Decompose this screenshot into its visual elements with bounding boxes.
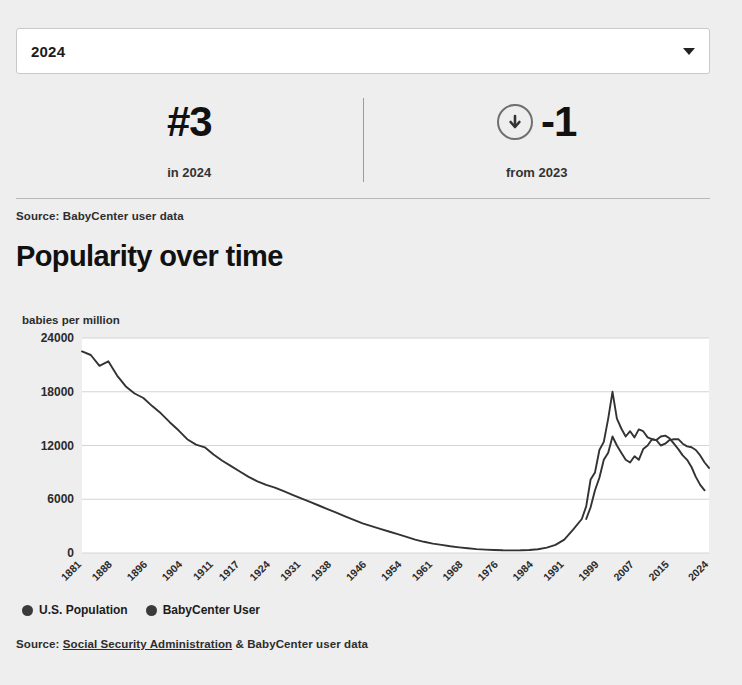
stat-rank-value: #3 <box>167 101 212 143</box>
x-tick-label: 1888 <box>89 558 114 583</box>
divider-top <box>16 198 710 199</box>
x-tick-label: 1968 <box>440 558 465 583</box>
stat-change-value-group: -1 <box>497 101 576 143</box>
x-tick-label: 1931 <box>278 558 303 583</box>
legend-item[interactable]: BabyCenter User <box>146 603 260 617</box>
source-top: Source: BabyCenter user data <box>16 210 184 222</box>
y-tick-label: 18000 <box>41 385 75 399</box>
stat-rank-value-group: #3 <box>167 101 212 143</box>
x-tick-label: 1984 <box>510 558 535 583</box>
arrow-down-circle-icon <box>497 104 533 140</box>
x-tick-label: 2007 <box>611 558 636 583</box>
x-tick-label: 1999 <box>576 558 601 583</box>
x-tick-label: 2024 <box>685 558 710 583</box>
year-select[interactable]: 2024 <box>16 28 710 74</box>
stat-rank-caption: in 2024 <box>167 165 211 180</box>
x-tick-label: 1917 <box>216 558 241 583</box>
x-tick-label: 1938 <box>308 558 333 583</box>
source-bottom-link[interactable]: Social Security Administration <box>63 638 232 650</box>
legend-dot-icon <box>22 605 33 616</box>
stat-change: -1 from 2023 <box>364 90 711 190</box>
stat-rank: #3 in 2024 <box>16 90 363 190</box>
legend-label: BabyCenter User <box>163 603 260 617</box>
source-bottom: Source: Social Security Administration &… <box>16 638 368 650</box>
source-bottom-suffix: & BabyCenter user data <box>232 638 368 650</box>
stat-change-value: -1 <box>541 101 576 143</box>
x-tick-label: 1954 <box>378 558 403 583</box>
x-tick-label: 2015 <box>646 558 671 583</box>
y-tick-label: 0 <box>67 546 74 560</box>
x-tick-label: 1924 <box>247 558 272 583</box>
x-axis-ticks: 1881188818961904191119171924193119381946… <box>58 558 710 583</box>
x-tick-label: 1904 <box>159 558 184 583</box>
chart-legend: U.S. PopulationBabyCenter User <box>22 603 260 617</box>
stats-row: #3 in 2024 -1 from 2023 <box>16 90 710 190</box>
y-tick-label: 24000 <box>41 331 75 345</box>
x-tick-label: 1976 <box>475 558 500 583</box>
y-tick-label: 12000 <box>41 439 75 453</box>
chevron-down-icon <box>683 48 695 55</box>
source-bottom-prefix: Source: <box>16 638 63 650</box>
x-tick-label: 1961 <box>409 558 434 583</box>
x-tick-label: 1896 <box>124 558 149 583</box>
x-tick-label: 1946 <box>343 558 368 583</box>
y-axis-title: babies per million <box>22 314 120 326</box>
page-title: Popularity over time <box>16 240 283 273</box>
year-select-value: 2024 <box>31 43 65 60</box>
y-axis-ticks: 06000120001800024000 <box>41 331 75 560</box>
x-tick-label: 1881 <box>58 558 83 583</box>
stat-change-caption: from 2023 <box>506 165 567 180</box>
legend-dot-icon <box>146 605 157 616</box>
x-tick-label: 1991 <box>541 558 566 583</box>
legend-item[interactable]: U.S. Population <box>22 603 128 617</box>
y-tick-label: 6000 <box>47 492 74 506</box>
popularity-chart: 06000120001800024000 1881188818961904191… <box>16 330 716 595</box>
legend-label: U.S. Population <box>39 603 128 617</box>
x-tick-label: 1911 <box>190 558 215 583</box>
chart-svg: 06000120001800024000 1881188818961904191… <box>16 330 716 595</box>
